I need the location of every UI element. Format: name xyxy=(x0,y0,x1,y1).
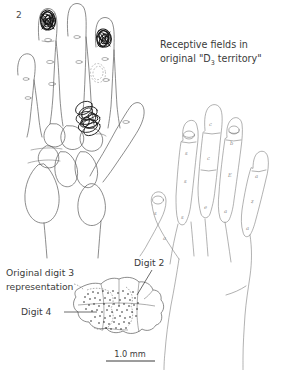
right-hand-web-1-2 xyxy=(170,224,178,264)
right-hand-palm-crease xyxy=(226,286,246,295)
right-hand-thumb-letter-2: a xyxy=(163,235,166,241)
scale-bar-label: 1.0 mm xyxy=(114,349,146,359)
leader-original-digit3 xyxy=(74,284,84,290)
panel-label: 2 xyxy=(16,10,22,20)
title-line-2: original "D3 territory" xyxy=(160,53,262,67)
right-hand-digit3-joint-2 xyxy=(201,170,216,171)
left-hand-digit5-outline-right xyxy=(34,80,42,137)
right-hand-digit3-letter-1: c xyxy=(209,121,212,127)
title-line-2-post: territory" xyxy=(215,53,262,64)
right-hand-digit5-letter-3: a xyxy=(246,225,249,231)
left-hand-digit3-joint-2 xyxy=(76,61,82,64)
right-hand-digit3-joint-1 xyxy=(204,133,220,134)
left-hand-digit3-outline xyxy=(67,4,86,127)
left-hand-palm-pad-a xyxy=(44,124,65,147)
right-hand-digit4-joint-1 xyxy=(226,140,241,141)
right-hand-digit5-letter-2: z xyxy=(250,198,254,204)
left-hand-digit2-joint-2 xyxy=(47,60,54,63)
right-hand-digit2-letter-1: s xyxy=(185,150,188,156)
left-hand-digit2-joint-3 xyxy=(49,82,56,85)
title-line-2-pre: original "D xyxy=(160,53,211,64)
right-hand-digit2-nail xyxy=(184,131,195,139)
right-hand-digit4-letter-1: b xyxy=(230,140,233,146)
right-hand-palm-left-edge xyxy=(164,259,179,370)
right-hand-digit2-joint-1 xyxy=(182,142,196,143)
label-original-digit3-line2: representation xyxy=(6,281,74,292)
left-hand-palm-pad-b xyxy=(61,126,84,150)
figure-canvas: 2 Receptive fields in original "D3 terri… xyxy=(0,0,290,370)
left-hand-palm-pad-f xyxy=(75,152,98,188)
right-hand-digit2-letter-2: s xyxy=(184,178,187,184)
left-hand-diagram xyxy=(18,4,145,259)
right-hand-palm-right-edge xyxy=(243,235,252,370)
label-digit2: Digit 2 xyxy=(134,257,164,268)
left-hand-thenar-pad xyxy=(78,184,106,226)
right-hand-web-4-5 xyxy=(225,222,231,262)
right-hand-digit3-letter-2: c xyxy=(207,155,210,161)
right-hand-digit2-letter-3: s xyxy=(181,214,184,220)
right-hand-digit5-outline xyxy=(241,151,268,236)
figure-root: 2 Receptive fields in original "D3 terri… xyxy=(0,0,290,370)
left-hand-palm-boundary xyxy=(44,223,47,258)
left-hand-digit4-outline-right xyxy=(114,50,120,128)
right-hand-diagram: c c e s s s b E a a z a xyxy=(140,105,268,370)
receptive-field-palm-cluster xyxy=(73,98,102,138)
right-hand-digit5-joint-1 xyxy=(252,170,266,172)
cortical-map-divider-5 xyxy=(106,328,128,330)
right-hand-digit2-outline xyxy=(176,120,198,225)
left-hand-digit5-outline xyxy=(18,54,36,137)
scale-bar: 1.0 mm xyxy=(106,349,155,361)
leader-digit2 xyxy=(137,270,152,295)
left-hand-digit2-outline-right xyxy=(56,41,63,126)
right-hand-digit4-outline xyxy=(218,118,242,223)
left-hand-palm-pad-e xyxy=(55,152,78,187)
right-hand-web-2-3 xyxy=(191,222,194,256)
label-original-digit3-line1: Original digit 3 xyxy=(6,267,74,278)
right-hand-digit2-nail-line xyxy=(184,136,194,138)
title-line-1: Receptive fields in xyxy=(160,39,248,50)
left-hand-hypothenar-pad xyxy=(25,164,59,223)
left-hand-thumb-web-crease xyxy=(96,134,106,136)
right-hand-digit4-letter-3: a xyxy=(224,208,227,214)
left-hand-digit3-joint-1 xyxy=(74,36,80,39)
left-hand-wrist-right xyxy=(98,221,101,258)
left-hand-palm-crease-1 xyxy=(31,148,62,150)
cortical-map-divider-2 xyxy=(137,282,139,332)
cortical-map xyxy=(74,277,164,333)
left-hand-thumb-joint xyxy=(123,121,129,124)
receptive-field-digit3-dashed xyxy=(89,63,106,84)
right-hand-web-3-4 xyxy=(205,219,208,256)
cortical-map-divider-6 xyxy=(144,290,153,299)
left-hand-digit4-joint-1 xyxy=(102,58,108,61)
left-hand-digit2-joint-1 xyxy=(45,38,52,41)
right-hand-digit5-letter-1: a xyxy=(255,173,258,179)
right-hand-thumb-nail xyxy=(153,196,164,204)
left-hand-digit5-joint-1 xyxy=(23,78,29,81)
right-hand-thumb-letter-1: s xyxy=(154,210,157,216)
left-hand-digit5-joint-2 xyxy=(25,97,31,100)
receptive-field-digit4-tip xyxy=(94,27,113,49)
right-hand-digit4-letter-2: E xyxy=(227,172,232,178)
label-digit4: Digit 4 xyxy=(21,306,52,317)
right-hand-digit3-letter-3: e xyxy=(204,204,207,210)
